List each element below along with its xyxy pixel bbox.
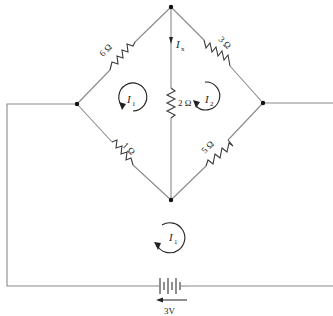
label-3-ohm: 3 Ω (217, 34, 234, 51)
resistor-2-ohm (167, 7, 175, 200)
resistor-5-ohm (171, 103, 263, 200)
current-ix-arrow (169, 37, 173, 44)
resistor-1-ohm (77, 104, 171, 200)
wire-left-outer (7, 104, 156, 286)
svg-text:2: 2 (210, 100, 214, 108)
node-right (261, 101, 265, 105)
resistor-6-ohm (77, 7, 171, 104)
node-bottom (169, 198, 173, 202)
mesh-loop-bottom: I 1 (154, 223, 185, 253)
svg-text:x: x (181, 45, 185, 53)
svg-text:1: 1 (174, 238, 178, 246)
battery-label: 3V (164, 306, 176, 316)
circuit-diagram: 6 Ω 3 Ω 1 Ω 5 Ω 2 Ω I x I 1 (0, 0, 333, 316)
node-top (169, 5, 173, 9)
battery-direction-arrow (156, 298, 187, 303)
node-left (75, 102, 79, 106)
current-ix-label: I x (175, 38, 185, 53)
label-6-ohm: 6 Ω (97, 42, 114, 59)
label-1-ohm: 1 Ω (121, 140, 138, 157)
svg-text:1: 1 (132, 100, 136, 108)
label-5-ohm: 5 Ω (199, 139, 216, 156)
resistor-3-ohm (171, 7, 263, 103)
mesh-loop-left: I 1 (119, 83, 147, 111)
battery-3v (156, 278, 186, 294)
mesh-loop-right: I 2 (193, 82, 220, 110)
label-2-ohm: 2 Ω (178, 98, 192, 108)
